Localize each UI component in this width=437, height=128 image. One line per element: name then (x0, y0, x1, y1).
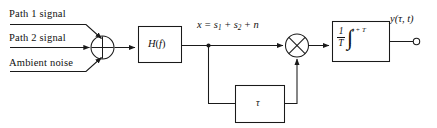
filter-letter: H (148, 38, 156, 49)
one-over-t-fraction: 1 T (337, 27, 345, 48)
expr-n: n (254, 19, 259, 30)
expr-plus-1: + (224, 19, 231, 30)
output-terminal-circle (413, 38, 419, 44)
expr-s1-subscript: 1 (218, 24, 222, 32)
expr-s2-subscript: 2 (238, 24, 242, 32)
expr-plus-2: + (244, 19, 251, 30)
block-diagram-figure: Path 1 signal Path 2 signal Ambient nois… (0, 0, 437, 128)
fraction-numerator: 1 (338, 27, 345, 37)
expr-equals: = (204, 19, 211, 30)
integral-lower-limit: t (349, 41, 366, 48)
integrator-expression: 1 T ∫ t + T t (337, 27, 366, 48)
filter-block-label: H(f) (148, 39, 166, 50)
filter-output-expression: x = s1 + s2 + n (197, 20, 259, 32)
input-label-path1: Path 1 signal (9, 9, 66, 20)
expr-x-symbol: x (197, 19, 202, 30)
integral-limits: t + T t (352, 28, 366, 48)
fraction-denominator: T (337, 39, 344, 49)
input-label-noise: Ambient noise (9, 58, 73, 69)
filter-paren-close: ) (162, 38, 166, 49)
integral-upper-limit: t + T (352, 27, 366, 34)
delay-block-label: τ (256, 98, 260, 108)
feedback-to-delay-line (209, 46, 236, 104)
output-label: y(τ, t) (390, 14, 414, 25)
integral-group: ∫ t + T t (347, 28, 366, 48)
delay-to-multiplier-line (285, 59, 298, 104)
input-label-path2: Path 2 signal (9, 33, 66, 44)
delay-block-rect (236, 86, 285, 123)
